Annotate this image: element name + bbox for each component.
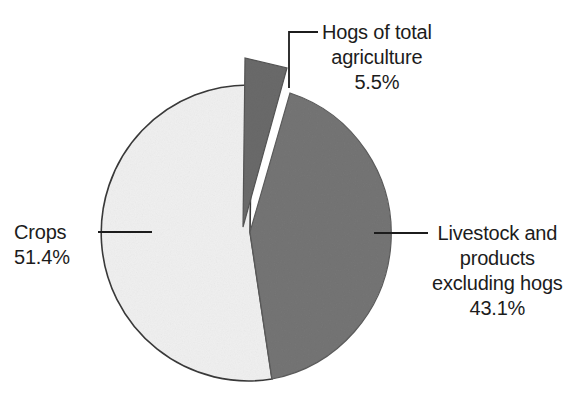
slice-label-crops-value: 51.4% — [14, 245, 70, 270]
slice-label-crops: Crops 51.4% — [14, 220, 70, 270]
pie-chart-figure: Hogs of total agriculture 5.5% Crops 51.… — [0, 0, 584, 394]
slice-label-livestock: Livestock and products excluding hogs 43… — [432, 221, 563, 321]
pie-slice-livestock[interactable] — [250, 93, 391, 379]
slice-label-hogs-line2: agriculture — [322, 45, 432, 70]
slice-label-livestock-line3: excluding hogs — [432, 271, 563, 296]
slice-label-livestock-line2: products — [432, 246, 563, 271]
slice-label-hogs-value: 5.5% — [322, 70, 432, 95]
slice-label-hogs-line1: Hogs of total — [322, 20, 432, 45]
pie-chart-canvas — [0, 0, 584, 394]
slice-label-hogs: Hogs of total agriculture 5.5% — [322, 20, 432, 95]
slice-label-livestock-line1: Livestock and — [432, 221, 563, 246]
slice-label-livestock-value: 43.1% — [432, 296, 563, 321]
slice-label-crops-line1: Crops — [14, 220, 70, 245]
leader-line-hogs — [289, 32, 318, 88]
